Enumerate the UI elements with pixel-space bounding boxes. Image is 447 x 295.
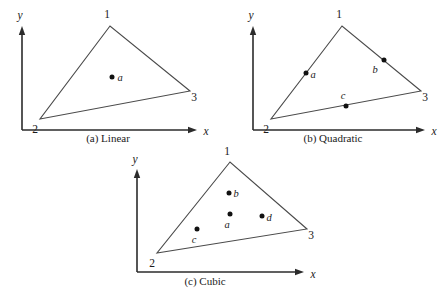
- panel-c-x-axis-label: x: [309, 268, 316, 280]
- panel-c-vertex-label-3: 3: [308, 229, 314, 241]
- panel-c-point-a-dot: [228, 212, 233, 217]
- panel-a-point-a-dot: [110, 75, 115, 80]
- panel-c-point-a-label: a: [224, 219, 229, 230]
- panel-c-triangle: [157, 162, 307, 253]
- panel-c-vertex-label-1: 1: [224, 145, 230, 157]
- panel-a-x-axis-arrow-icon: [188, 127, 197, 133]
- panel-b-point-a-dot: [304, 71, 309, 76]
- panel-b-point-b-dot: [382, 58, 387, 63]
- panel-a-vertex-label-1: 1: [104, 8, 110, 20]
- panel-b-vertex-label-3: 3: [422, 91, 428, 103]
- panel-a-y-axis-arrow-icon: [19, 26, 25, 35]
- figure-canvas: xy123a(a) Linearxy123abc(b) Quadraticxy1…: [0, 0, 447, 295]
- panel-a-y-axis-label: y: [16, 9, 23, 22]
- panel-b-point-c-dot: [344, 104, 349, 109]
- panel-c-caption: (c) Cubic: [184, 275, 225, 288]
- panel-b-y-axis-arrow-icon: [250, 26, 256, 35]
- panel-c-point-d-dot: [260, 214, 265, 219]
- panel-b-x-axis-label: x: [430, 125, 437, 137]
- panel-c-x-axis-arrow-icon: [295, 269, 304, 275]
- panel-a-point-a-label: a: [117, 72, 122, 83]
- panel-b-caption: (b) Quadratic: [304, 132, 363, 145]
- panel-c-point-d-label: d: [266, 212, 272, 223]
- panel-b-point-a-label: a: [310, 69, 315, 80]
- panel-c-y-axis-label: y: [131, 153, 138, 166]
- panel-b-vertex-label-2: 2: [263, 123, 269, 135]
- panel-a-x-axis-label: x: [202, 125, 209, 137]
- panel-a-triangle: [40, 26, 190, 119]
- panel-c-point-c-dot: [195, 227, 200, 232]
- figure-container: xy123a(a) Linearxy123abc(b) Quadraticxy1…: [0, 0, 447, 295]
- panel-c-y-axis-arrow-icon: [134, 169, 140, 178]
- panel-a-vertex-label-3: 3: [191, 91, 197, 103]
- panel-c-point-b-label: b: [233, 188, 238, 199]
- panel-c-point-c-label: c: [192, 234, 197, 245]
- panel-c-vertex-label-2: 2: [149, 257, 155, 269]
- panel-b-y-axis-label: y: [247, 9, 254, 22]
- panel-b-point-c-label: c: [341, 90, 346, 101]
- panel-b-point-b-label: b: [372, 64, 377, 75]
- panel-a-caption: (a) Linear: [86, 132, 130, 145]
- panel-b-vertex-label-1: 1: [336, 8, 342, 20]
- panel-c-point-b-dot: [227, 191, 232, 196]
- panel-b-x-axis-arrow-icon: [416, 127, 425, 133]
- panel-a-vertex-label-2: 2: [32, 123, 38, 135]
